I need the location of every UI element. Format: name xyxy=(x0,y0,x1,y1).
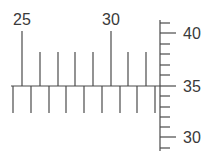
label-30-vertical: 30 xyxy=(183,130,201,146)
lower-ticks xyxy=(13,86,155,113)
vertical-scale xyxy=(160,20,176,151)
label-40: 40 xyxy=(183,26,201,42)
label-25: 25 xyxy=(13,12,31,28)
label-30-horizontal: 30 xyxy=(102,12,120,28)
label-35: 35 xyxy=(183,79,201,95)
upper-ticks xyxy=(22,31,146,86)
